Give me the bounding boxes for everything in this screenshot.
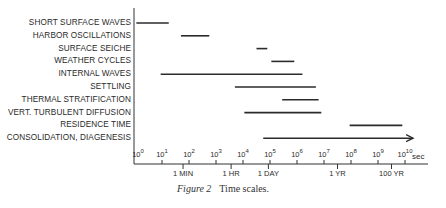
x-tick-label: 106 bbox=[291, 148, 303, 159]
caption-label: Figure 2 bbox=[177, 183, 211, 194]
x-tick-label: 103 bbox=[210, 148, 222, 159]
figure-caption: Figure 2Time scales. bbox=[0, 183, 446, 194]
x-tick-label: 1010 bbox=[397, 148, 412, 159]
x-tick-label: 109 bbox=[372, 148, 384, 159]
category-label: RESIDENCE TIME bbox=[60, 120, 131, 130]
x-tick-label: 102 bbox=[183, 148, 195, 159]
x-tick-label: 108 bbox=[345, 148, 357, 159]
category-label: SHORT SURFACE WAVES bbox=[29, 18, 131, 28]
time-scales-chart: SHORT SURFACE WAVESHARBOR OSCILLATIONSSU… bbox=[0, 0, 446, 208]
x-tick-label: 101 bbox=[156, 148, 168, 159]
unit-label: 1 YR bbox=[329, 169, 346, 178]
x-tick-label: 107 bbox=[318, 148, 330, 159]
x-tick-label: 100 bbox=[132, 148, 144, 159]
unit-label: 1 DAY bbox=[258, 169, 279, 178]
category-label: WEATHER CYCLES bbox=[54, 56, 131, 66]
x-axis-unit: sec bbox=[412, 152, 424, 161]
category-label: CONSOLIDATION, DIAGENESIS bbox=[7, 133, 131, 143]
category-label: SURFACE SEICHE bbox=[58, 44, 131, 54]
category-label: INTERNAL WAVES bbox=[58, 69, 131, 79]
category-label: VERT. TURBULENT DIFFUSION bbox=[8, 108, 131, 118]
category-label: THERMAL STRATIFICATION bbox=[22, 95, 131, 105]
unit-label: 1 MIN bbox=[173, 169, 193, 178]
x-tick-label: 104 bbox=[237, 148, 249, 159]
caption-title: Time scales. bbox=[219, 183, 269, 194]
category-label: HARBOR OSCILLATIONS bbox=[33, 31, 131, 41]
category-label: SETTLING bbox=[90, 82, 131, 92]
x-tick-label: 105 bbox=[264, 148, 276, 159]
unit-label: 100 YR bbox=[379, 169, 404, 178]
unit-label: 1 HR bbox=[223, 169, 240, 178]
